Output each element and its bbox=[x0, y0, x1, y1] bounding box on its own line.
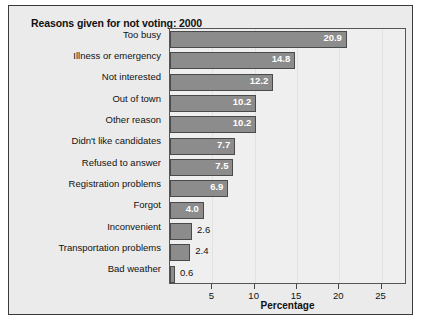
x-axis: 510152025 bbox=[169, 284, 406, 285]
category-label: Bad weather bbox=[108, 263, 161, 274]
x-tick bbox=[338, 284, 339, 289]
bar-value-label: 6.9 bbox=[210, 181, 223, 192]
bar-row: 6.9 bbox=[170, 178, 405, 199]
bar-value-label: 10.2 bbox=[233, 96, 252, 107]
bar-row: 4.0 bbox=[170, 200, 405, 221]
bar bbox=[170, 266, 175, 283]
bar-value-label: 10.2 bbox=[233, 117, 252, 128]
bar-value-label: 20.9 bbox=[323, 32, 342, 43]
x-axis-title: Percentage bbox=[169, 300, 406, 311]
bar-value-label: 7.7 bbox=[217, 139, 230, 150]
category-label: Transportation problems bbox=[58, 242, 161, 253]
bar-row: 0.6 bbox=[170, 264, 405, 285]
category-label: Other reason bbox=[106, 114, 161, 125]
bar-row: 14.8 bbox=[170, 50, 405, 71]
x-tick bbox=[254, 284, 255, 289]
category-label: Didn't like candidates bbox=[72, 135, 161, 146]
bar-row: 12.2 bbox=[170, 72, 405, 93]
category-label: Inconvenient bbox=[107, 221, 161, 232]
category-label: Too busy bbox=[123, 29, 161, 40]
bar-value-label: 0.6 bbox=[180, 267, 193, 278]
category-label: Forgot bbox=[134, 199, 161, 210]
bar-row: 10.2 bbox=[170, 93, 405, 114]
bar-row: 2.4 bbox=[170, 242, 405, 263]
bar bbox=[170, 31, 347, 48]
bar-value-label: 12.2 bbox=[250, 75, 269, 86]
category-label: Refused to answer bbox=[82, 157, 161, 168]
bar-row: 7.7 bbox=[170, 136, 405, 157]
bar-value-label: 14.8 bbox=[272, 53, 291, 64]
x-tick bbox=[211, 284, 212, 289]
bar-value-label: 7.5 bbox=[215, 160, 228, 171]
bar-row: 2.6 bbox=[170, 221, 405, 242]
bar bbox=[170, 223, 192, 240]
x-tick bbox=[296, 284, 297, 289]
bar-value-label: 2.6 bbox=[197, 224, 210, 235]
category-label: Out of town bbox=[112, 93, 161, 104]
bar-row: 10.2 bbox=[170, 114, 405, 135]
bar-row: 7.5 bbox=[170, 157, 405, 178]
x-tick bbox=[381, 284, 382, 289]
plot-area: 20.914.812.210.210.27.77.56.94.02.62.40.… bbox=[169, 28, 406, 284]
figure-frame: Reasons given for not voting: 2000 20.91… bbox=[8, 5, 413, 315]
category-label: Illness or emergency bbox=[73, 50, 161, 61]
bar bbox=[170, 244, 190, 261]
category-label: Registration problems bbox=[69, 178, 161, 189]
category-label: Not interested bbox=[102, 71, 161, 82]
bar-value-label: 4.0 bbox=[186, 203, 199, 214]
bar-row: 20.9 bbox=[170, 29, 405, 50]
chart-figure: Reasons given for not voting: 2000 20.91… bbox=[0, 0, 428, 326]
bar-value-label: 2.4 bbox=[195, 245, 208, 256]
